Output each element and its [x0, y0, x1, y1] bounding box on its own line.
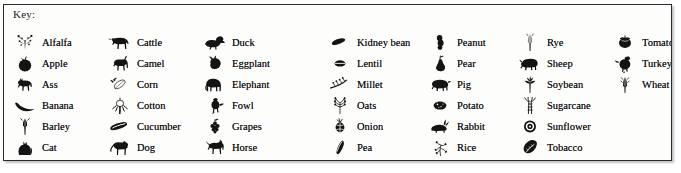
key-entry: Onion [325, 116, 410, 137]
grapes-icon [200, 117, 230, 137]
key-entry-label: Wheat [642, 79, 669, 90]
key-entry: Duck [200, 32, 270, 53]
key-entry-label: Dog [137, 142, 155, 153]
key-entry-label: Grapes [232, 121, 262, 132]
key-entry: Banana [10, 95, 74, 116]
key-column-5: PeanutPearPigPotatoRabbitRice [425, 32, 486, 158]
eggplant-icon [200, 54, 230, 74]
key-entry-label: Cotton [137, 100, 166, 111]
key-entry: Rice [425, 137, 486, 158]
key-entry: Sugarcane [515, 95, 591, 116]
key-entry: Rabbit [425, 116, 486, 137]
key-entry-label: Ass [42, 79, 58, 90]
key-entry-label: Sunflower [547, 121, 591, 132]
key-entry-label: Cat [42, 142, 57, 153]
key-entry: Sunflower [515, 116, 591, 137]
key-entry: Elephant [200, 74, 270, 95]
barley-stalk-icon [10, 117, 40, 137]
tobacco-leaf-icon [515, 138, 545, 158]
key-entry: Cattle [105, 32, 181, 53]
key-entry-label: Barley [42, 121, 70, 132]
cow-icon [105, 33, 135, 53]
corn-cob-icon [105, 75, 135, 95]
key-entry-label: Kidney bean [357, 37, 410, 48]
key-entry: Eggplant [200, 53, 270, 74]
duck-icon [200, 33, 230, 53]
fowl-icon [200, 96, 230, 116]
potato-icon [425, 96, 455, 116]
key-entry-label: Alfalfa [42, 37, 72, 48]
donkey-icon [10, 75, 40, 95]
key-entry: Tomato [610, 32, 672, 53]
key-entry: Peanut [425, 32, 486, 53]
key-entry: Ass [10, 74, 74, 95]
key-entry-label: Rabbit [457, 121, 485, 132]
wheat-ear-icon [610, 75, 640, 95]
key-entry-label: Fowl [232, 100, 254, 111]
key-entry: Pea [325, 137, 410, 158]
cotton-boll-icon [105, 96, 135, 116]
key-entry-label: Rice [457, 142, 476, 153]
oat-sprig-icon [325, 96, 355, 116]
key-entry-label: Banana [42, 100, 74, 111]
key-title: Key: [13, 8, 35, 20]
tomato-icon [610, 33, 640, 53]
key-entry-label: Millet [357, 79, 383, 90]
apple-icon [10, 54, 40, 74]
dog-icon [105, 138, 135, 158]
kidney-bean-icon [325, 33, 355, 53]
rabbit-icon [425, 117, 455, 137]
banana-icon [10, 96, 40, 116]
key-entry-label: Onion [357, 121, 383, 132]
key-entry-label: Rye [547, 37, 564, 48]
key-entry: Fowl [200, 95, 270, 116]
key-column-6: RyeSheepSoybeanSugarcaneSunflowerTobacco [515, 32, 591, 158]
key-column-1: AlfalfaAppleAssBananaBarleyCat [10, 32, 74, 158]
millet-spray-icon [325, 75, 355, 95]
key-entry: Cat [10, 137, 74, 158]
rice-sprig-icon [425, 138, 455, 158]
key-entry-label: Cucumber [137, 121, 181, 132]
soybean-plant-icon [515, 75, 545, 95]
key-entry: Cotton [105, 95, 181, 116]
key-entry: Wheat [610, 74, 672, 95]
peanut-icon [425, 33, 455, 53]
key-entry-label: Sheep [547, 58, 573, 69]
key-entry: Horse [200, 137, 270, 158]
horse-icon [200, 138, 230, 158]
key-entry: Potato [425, 95, 486, 116]
key-entry-label: Sugarcane [547, 100, 591, 111]
key-entry-label: Pea [357, 142, 372, 153]
key-entry-label: Camel [137, 58, 164, 69]
key-entry-label: Tobacco [547, 142, 582, 153]
key-entry-label: Corn [137, 79, 158, 90]
cat-icon [10, 138, 40, 158]
key-entry-label: Eggplant [232, 58, 270, 69]
key-entry: Tobacco [515, 137, 591, 158]
sugarcane-icon [515, 96, 545, 116]
lentil-icon [325, 54, 355, 74]
key-entry-label: Pig [457, 79, 471, 90]
key-entry: Barley [10, 116, 74, 137]
key-entry: Soybean [515, 74, 591, 95]
key-column-4: Kidney beanLentilMilletOatsOnionPea [325, 32, 410, 158]
key-entry: Turkey [610, 53, 672, 74]
key-entry: Pig [425, 74, 486, 95]
key-column-3: DuckEggplantElephantFowlGrapesHorse [200, 32, 270, 158]
sheep-icon [515, 54, 545, 74]
alfalfa-sprig-icon [10, 33, 40, 53]
key-entry: Cucumber [105, 116, 181, 137]
key-entry: Corn [105, 74, 181, 95]
onion-icon [325, 117, 355, 137]
key-entry-label: Cattle [137, 37, 162, 48]
key-entry-label: Oats [357, 100, 376, 111]
key-entry-label: Turkey [642, 58, 672, 69]
key-column-2: CattleCamelCornCottonCucumberDog [105, 32, 181, 158]
key-entry: Dog [105, 137, 181, 158]
key-entry: Kidney bean [325, 32, 410, 53]
sunflower-icon [515, 117, 545, 137]
key-entry-label: Lentil [357, 58, 382, 69]
key-entry-label: Duck [232, 37, 255, 48]
key-entry: Rye [515, 32, 591, 53]
elephant-icon [200, 75, 230, 95]
